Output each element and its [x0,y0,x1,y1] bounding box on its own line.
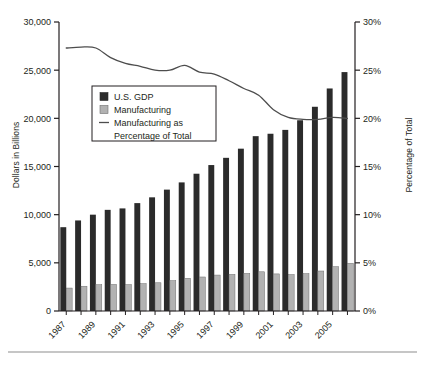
y-axis-left-tick-label: 15,000 [23,162,51,172]
legend-label[interactable]: Manufacturing [114,105,171,115]
bar-manufacturing [185,278,191,311]
bar-manufacturing [244,273,250,311]
bar-us-gdp [312,107,318,311]
bar-manufacturing [125,285,131,311]
y-axis-right-tick-label: 20% [363,114,381,124]
legend-label[interactable]: Manufacturing as [114,118,184,128]
y-axis-left-tick-label: 20,000 [23,114,51,124]
x-axis-tick-label: 1993 [135,319,156,340]
bar-us-gdp [238,149,244,311]
bar-manufacturing [81,286,87,311]
bar-us-gdp [253,136,259,311]
legend-label-continued[interactable]: Percentage of Total [114,131,191,141]
bar-us-gdp [342,72,348,311]
y-axis-left-tick-label: 25,000 [23,66,51,76]
x-axis-tick-label: 2003 [283,319,304,340]
bar-us-gdp [282,130,288,311]
y-axis-right-tick-label: 5% [363,258,376,268]
x-axis-tick-label: 1995 [165,319,186,340]
y-axis-left-tick-label: 30,000 [23,17,51,27]
bar-us-gdp [223,158,229,311]
bar-manufacturing [318,271,324,311]
bar-us-gdp [194,174,200,311]
bar-manufacturing [140,284,146,311]
y-axis-right-tick-label: 0% [363,306,376,316]
bar-manufacturing [214,275,220,311]
bar-manufacturing [273,274,279,311]
bar-us-gdp [105,210,111,311]
bar-us-gdp [134,203,140,311]
bar-manufacturing [259,272,265,311]
chart-legend[interactable]: U.S. GDPManufacturingManufacturing asPer… [92,86,216,141]
bar-manufacturing [229,274,235,311]
bar-manufacturing [66,288,72,311]
bar-us-gdp [149,197,155,311]
legend-swatch-manufacturing [100,106,108,114]
y-axis-right-tick-label: 25% [363,66,381,76]
bar-us-gdp [120,208,126,311]
bar-us-gdp [90,215,96,311]
y-axis-left-tick-label: 5,000 [28,258,51,268]
chart-canvas: 05,00010,00015,00020,00025,00030,0000%5%… [0,0,425,366]
y-axis-left-tick-label: 0 [46,306,51,316]
bar-manufacturing [303,274,309,311]
y-axis-right-tick-label: 10% [363,210,381,220]
bar-us-gdp [60,227,66,311]
bar-us-gdp [208,165,214,311]
x-axis-tick-label: 1999 [224,319,245,340]
y-axis-left-tick-label: 10,000 [23,210,51,220]
y-axis-right-tick-label: 15% [363,162,381,172]
bar-manufacturing [96,285,102,311]
bar-manufacturing [155,283,161,311]
bar-us-gdp [297,120,303,311]
bar-manufacturing [199,277,205,311]
legend-swatch-us-gdp [100,93,108,101]
bar-us-gdp [75,220,81,311]
x-axis-tick-label: 2001 [254,319,275,340]
bar-manufacturing [288,275,294,311]
bar-manufacturing [111,284,117,311]
bar-us-gdp [327,88,333,311]
x-axis-tick-label: 2005 [313,319,334,340]
chart-figure: Dollars in Billions Percentage of Total … [0,0,425,366]
x-axis-tick-label: 1991 [106,319,127,340]
x-axis-tick-label: 1997 [194,319,215,340]
y-axis-right-tick-label: 30% [363,17,381,27]
x-axis-tick-label: 1987 [46,319,67,340]
bar-manufacturing [170,281,176,311]
bar-us-gdp [268,134,274,311]
bar-manufacturing [347,263,353,311]
legend-label[interactable]: U.S. GDP [114,92,154,102]
bar-manufacturing [333,267,339,311]
bar-us-gdp [179,182,185,311]
bar-us-gdp [164,190,170,311]
x-axis-tick-label: 1989 [76,319,97,340]
